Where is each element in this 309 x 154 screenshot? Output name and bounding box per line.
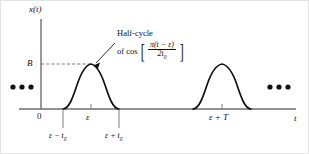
formula-denominator: 2t0: [155, 50, 168, 60]
tick-label-epsilon-minus-t0: ε − t0: [49, 132, 67, 142]
annotation-arrowhead-icon: [94, 63, 101, 69]
half-cycle-annotation: Half-cycle of cos [ π(t − ε) 2t0 ]: [117, 28, 185, 61]
y-axis-label: x(t): [29, 5, 42, 14]
formula-fraction: π(t − ε) 2t0: [148, 41, 176, 61]
figure-container: x(t) t B 0 ε ε + T ε − t0 ε + t0 Half-cy…: [0, 0, 309, 154]
amplitude-label: B: [27, 59, 33, 68]
bracket-open: [: [140, 42, 144, 60]
annotation-title: Half-cycle: [117, 28, 185, 38]
formula-denominator-sub: 0: [164, 54, 167, 60]
tick-label-epsilon-plus-T: ε + T: [209, 113, 228, 122]
annotation-formula-prefix: of cos: [117, 46, 138, 56]
origin-label: 0: [37, 112, 42, 121]
ellipsis-right-dot-1: [267, 84, 272, 89]
tick-label-epsilon-plus-t0-main: ε + t: [105, 131, 120, 140]
bracket-close: ]: [180, 42, 184, 60]
x-axis-label: t: [294, 114, 297, 123]
tick-label-epsilon-minus-t0-main: ε − t: [49, 131, 64, 140]
ellipsis-left-dot-3: [28, 84, 33, 89]
pulse-curve-1: [63, 64, 119, 109]
formula-numerator: π(t − ε): [148, 41, 176, 49]
tick-label-epsilon: ε: [86, 113, 90, 122]
tick-label-epsilon-plus-t0-sub: 0: [120, 136, 123, 142]
pulse-curve-2: [193, 64, 251, 109]
tick-label-epsilon-plus-t0: ε + t0: [105, 132, 123, 142]
plot-canvas: [1, 1, 309, 154]
ellipsis-right-dot-3: [285, 84, 290, 89]
annotation-leader-line: [96, 43, 115, 63]
ellipsis-right-dot-2: [276, 84, 281, 89]
ellipsis-left-dot-1: [10, 84, 15, 89]
ellipsis-left-dot-2: [19, 84, 24, 89]
tick-label-epsilon-minus-t0-sub: 0: [64, 136, 67, 142]
annotation-formula: of cos [ π(t − ε) 2t0 ]: [117, 41, 185, 61]
